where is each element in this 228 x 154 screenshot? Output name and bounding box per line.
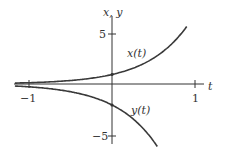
series-label-y: y(t) [130,104,150,117]
tick-label-y-5: 5 [99,28,106,41]
tick-label-t-1: 1 [192,92,199,105]
point-x0 [110,73,113,76]
tick-label-y-neg5: −5 [92,130,108,143]
point-y0 [110,103,113,106]
chart: x, y t 5 −5 −1 1 x(t) y(t) [0,0,228,154]
axis-label-t: t [208,80,213,93]
series-label-x: x(t) [127,47,146,60]
tick-label-t-neg1: −1 [20,92,36,105]
axis-label-xy: x, y [103,6,123,19]
